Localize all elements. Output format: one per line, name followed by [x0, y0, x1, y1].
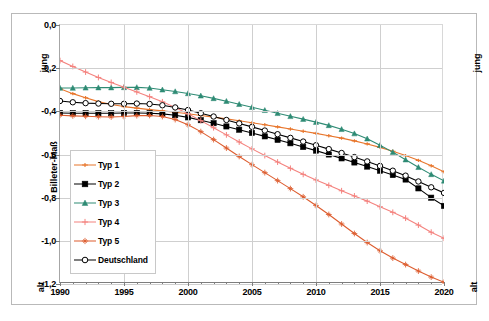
x-tick-mark-minor	[418, 282, 419, 284]
legend-item-typ-4[interactable]: Typ 4	[74, 212, 152, 231]
legend-marker-star-icon	[74, 235, 96, 247]
x-tick-mark-minor	[393, 282, 394, 284]
x-tick-mark-minor	[175, 282, 176, 284]
legend-item-deutschland[interactable]: Deutschland	[74, 250, 152, 269]
x-tick-mark	[60, 282, 61, 286]
y-tick-label: -0,8	[41, 193, 56, 203]
x-tick-mark-minor	[214, 282, 215, 284]
gridline-vertical	[188, 25, 189, 282]
x-tick-mark-minor	[226, 282, 227, 284]
x-tick-mark-minor	[150, 282, 151, 284]
gridline-vertical	[380, 25, 381, 282]
gridline-vertical	[252, 25, 253, 282]
legend-marker-cross-icon	[74, 216, 96, 228]
x-tick-mark-minor	[367, 282, 368, 284]
legend-item-typ-5[interactable]: Typ 5	[74, 231, 152, 250]
y-tick-label: -1,0	[41, 236, 56, 246]
y-tick-label: -0,2	[41, 63, 56, 73]
x-tick-mark-minor	[354, 282, 355, 284]
gridline-horizontal	[60, 111, 442, 112]
chart-figure: Billeter-Maß jung alt jung alt 0,0-0,2-0…	[0, 0, 489, 321]
x-tick-mark	[380, 282, 381, 286]
x-tick-mark-minor	[265, 282, 266, 284]
legend-label: Typ 5	[96, 236, 119, 246]
x-tick-mark-minor	[278, 282, 279, 284]
x-tick-mark-minor	[162, 282, 163, 284]
legend-marker-circle-open-icon	[74, 254, 96, 266]
x-tick-mark-minor	[342, 282, 343, 284]
y-tick-mark	[56, 241, 60, 242]
x-tick-mark	[252, 282, 253, 286]
x-tick-mark-minor	[431, 282, 432, 284]
x-tick-label: 2005	[242, 287, 261, 297]
legend-label: Typ 3	[96, 198, 119, 208]
legend-label: Typ 1	[96, 160, 119, 170]
x-tick-mark-minor	[201, 282, 202, 284]
y-tick-mark	[56, 198, 60, 199]
x-tick-mark-minor	[290, 282, 291, 284]
x-tick-mark	[444, 282, 445, 286]
legend-item-typ-2[interactable]: Typ 2	[74, 174, 152, 193]
legend-item-typ-1[interactable]: Typ 1	[74, 155, 152, 174]
x-tick-label: 1995	[114, 287, 133, 297]
gridline-vertical	[316, 25, 317, 282]
x-tick-label: 1990	[50, 287, 69, 297]
annotation-alt-right: alt	[469, 282, 479, 293]
x-tick-label: 2000	[178, 287, 197, 297]
x-tick-mark-minor	[329, 282, 330, 284]
legend-label: Deutschland	[96, 255, 148, 265]
legend-marker-square-icon	[74, 178, 96, 190]
x-tick-mark-minor	[303, 282, 304, 284]
legend-label: Typ 4	[96, 217, 119, 227]
x-tick-mark	[316, 282, 317, 286]
y-tick-mark	[56, 155, 60, 156]
x-tick-mark	[188, 282, 189, 286]
y-tick-mark	[56, 25, 60, 26]
y-tick-mark	[56, 111, 60, 112]
x-tick-mark	[124, 282, 125, 286]
gridline-horizontal	[60, 68, 442, 69]
y-tick-label: 0,0	[44, 20, 56, 30]
gridline-horizontal	[60, 284, 442, 285]
x-tick-mark-minor	[137, 282, 138, 284]
x-tick-mark-minor	[111, 282, 112, 284]
legend-marker-plus-icon	[74, 159, 96, 171]
legend-item-typ-3[interactable]: Typ 3	[74, 193, 152, 212]
x-tick-mark-minor	[98, 282, 99, 284]
x-tick-mark-minor	[406, 282, 407, 284]
x-tick-mark-minor	[86, 282, 87, 284]
x-tick-mark-minor	[239, 282, 240, 284]
y-tick-label: -0,6	[41, 150, 56, 160]
x-tick-label: 2020	[434, 287, 453, 297]
x-tick-label: 2010	[306, 287, 325, 297]
legend-marker-triangle-icon	[74, 197, 96, 209]
chart-frame: Billeter-Maß jung alt jung alt 0,0-0,2-0…	[11, 13, 477, 305]
legend-label: Typ 2	[96, 179, 119, 189]
x-tick-mark-minor	[73, 282, 74, 284]
y-tick-label: -0,4	[41, 106, 56, 116]
x-tick-label: 2015	[370, 287, 389, 297]
y-tick-mark	[56, 68, 60, 69]
annotation-jung-right: jung	[472, 54, 482, 73]
chart-legend: Typ 1Typ 2Typ 3Typ 4Typ 5Deutschland	[70, 150, 156, 274]
